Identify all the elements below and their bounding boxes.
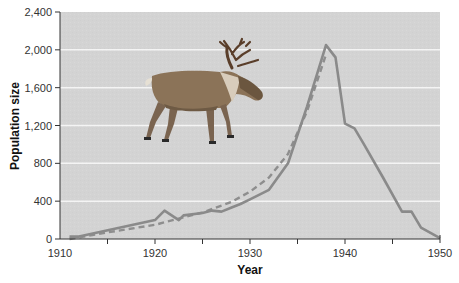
y-tick-label: 400 xyxy=(34,195,52,207)
y-axis-ticks: 04008001,2001,6002,0002,400 xyxy=(24,6,60,245)
y-tick-label: 2,400 xyxy=(24,6,52,18)
x-tick-label: 1940 xyxy=(333,247,357,259)
y-tick-label: 800 xyxy=(34,157,52,169)
x-tick-label: 1910 xyxy=(48,247,72,259)
y-tick-label: 0 xyxy=(46,233,52,245)
y-tick-label: 1,600 xyxy=(24,82,52,94)
y-axis-title: Population size xyxy=(8,82,22,170)
x-axis-title: Year xyxy=(237,263,263,277)
x-tick-label: 1930 xyxy=(238,247,262,259)
x-axis-ticks: 19101920193019401950 xyxy=(48,239,452,259)
x-tick-label: 1950 xyxy=(428,247,452,259)
y-tick-label: 1,200 xyxy=(24,120,52,132)
x-tick-label: 1920 xyxy=(143,247,167,259)
population-chart: 04008001,2001,6002,0002,400 191019201930… xyxy=(0,0,459,283)
y-tick-label: 2,000 xyxy=(24,44,52,56)
